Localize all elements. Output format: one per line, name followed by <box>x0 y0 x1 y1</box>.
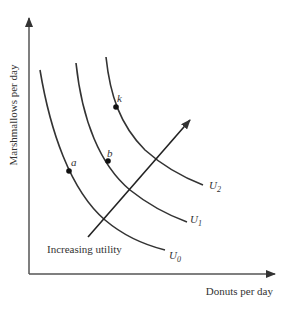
point-k <box>113 104 119 110</box>
curve-u0-label: U0 <box>169 249 181 264</box>
curve-u1-label: U1 <box>190 213 202 228</box>
point-k-label: k <box>117 92 123 104</box>
point-b-label: b <box>107 147 113 159</box>
y-axis-label: Marshmallows per day <box>7 64 19 165</box>
increasing-utility-arrow <box>88 120 190 237</box>
point-b <box>105 158 111 164</box>
x-axis-label: Donuts per day <box>206 285 274 297</box>
indifference-diagram: Marshmallows per day Donuts per day a b … <box>0 0 290 311</box>
curve-u2-label: U2 <box>209 179 221 194</box>
increasing-utility-label: Increasing utility <box>47 243 122 255</box>
point-a-label: a <box>71 156 77 168</box>
curve-u0 <box>40 70 165 250</box>
point-a <box>66 168 72 174</box>
